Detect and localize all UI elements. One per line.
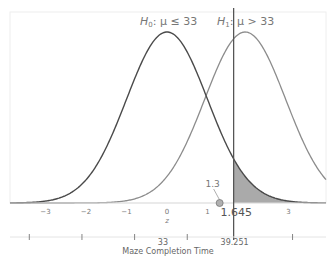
z-tick-label: 0 [165,208,169,216]
z-tick-labels: −3−2−1013 [40,208,290,216]
h1-text: : μ > 33 [230,15,274,28]
z-tick-label: −3 [40,208,50,216]
raw-axis-center-label: 33 [158,238,168,247]
raw-critical-value-label: 39.251 [221,238,249,247]
z-tick-label: 1 [205,208,209,216]
observed-value-label: 1.3 [205,179,219,189]
raw-axis-title: Maze Completion Time [122,247,213,256]
h1-symbol: H [217,15,225,28]
h0-text: : μ ≤ 33 [153,15,197,28]
z-axis-label: z [164,217,169,225]
z-tick-label: −2 [81,208,91,216]
z-tick-label: 3 [286,208,290,216]
observed-value-marker [216,200,223,207]
z-tick-label: −1 [121,208,131,216]
hypothesis-test-chart: −3−2−1013 1.645 z 1.3 33 39.251 Maze Com… [0,0,336,265]
h0-symbol: H [140,15,148,28]
critical-value-label: 1.645 [221,206,253,219]
